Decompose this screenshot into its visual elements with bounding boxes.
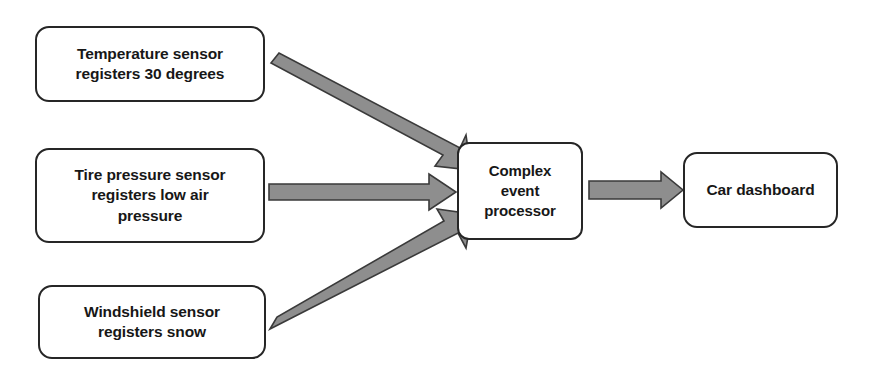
arrow-tire-to-cep [269, 174, 456, 210]
diagram-canvas: Temperature sensor registers 30 degrees … [0, 0, 870, 384]
node-windshield-sensor-label: Windshield sensor registers snow [78, 302, 226, 342]
node-temperature-sensor-label: Temperature sensor registers 30 degrees [70, 44, 231, 84]
arrow-cep-to-dashboard [589, 172, 683, 208]
node-tire-pressure-sensor-label: Tire pressure sensor registers low air p… [68, 165, 231, 225]
node-windshield-sensor[interactable]: Windshield sensor registers snow [38, 285, 266, 359]
node-complex-event-processor-label: Complex event processor [478, 161, 562, 221]
node-temperature-sensor[interactable]: Temperature sensor registers 30 degrees [35, 26, 265, 102]
node-tire-pressure-sensor[interactable]: Tire pressure sensor registers low air p… [35, 148, 265, 243]
arrow-windshield-to-cep [270, 209, 472, 329]
node-car-dashboard-label: Car dashboard [700, 180, 820, 200]
node-complex-event-processor[interactable]: Complex event processor [457, 142, 583, 240]
arrow-temperature-to-cep [271, 53, 471, 170]
node-car-dashboard[interactable]: Car dashboard [683, 152, 838, 228]
